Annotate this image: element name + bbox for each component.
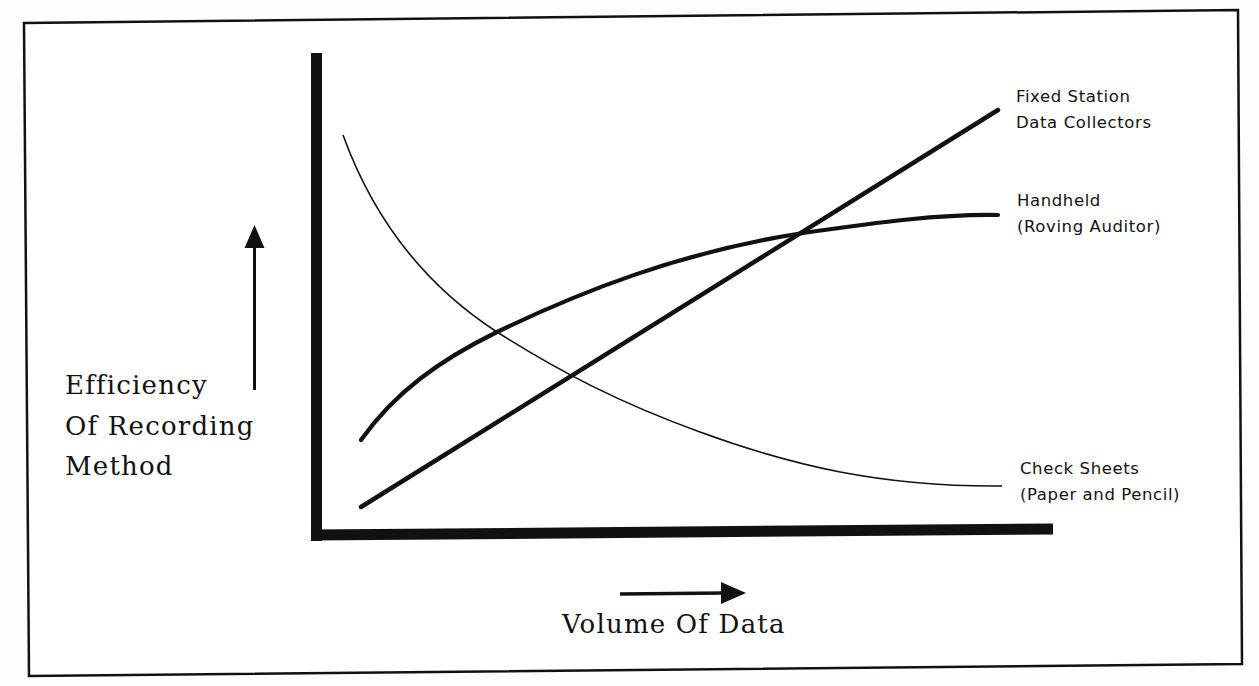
series-label-check-sheets-line1: Check Sheets [1020, 459, 1140, 478]
figure-frame [24, 10, 1242, 676]
series-label-check-sheets-line2: (Paper and Pencil) [1020, 485, 1180, 504]
series-label-handheld-line1: Handheld [1017, 191, 1101, 210]
series-label-handheld-line2: (Roving Auditor) [1017, 217, 1161, 236]
series-label-fixed-station-line2: Data Collectors [1016, 113, 1152, 132]
y-axis-label-line2: Of Recording [65, 411, 255, 441]
chart-figure: Fixed Station Data Collectors Handheld (… [0, 0, 1259, 686]
series-label-fixed-station-line1: Fixed Station [1016, 87, 1130, 106]
x-axis-label: Volume Of Data [561, 609, 786, 639]
x-axis [311, 529, 1053, 535]
y-axis-label-line1: Efficiency [65, 370, 208, 400]
y-axis-label-line3: Method [65, 451, 174, 481]
x-direction-arrow-shaft [620, 593, 724, 594]
